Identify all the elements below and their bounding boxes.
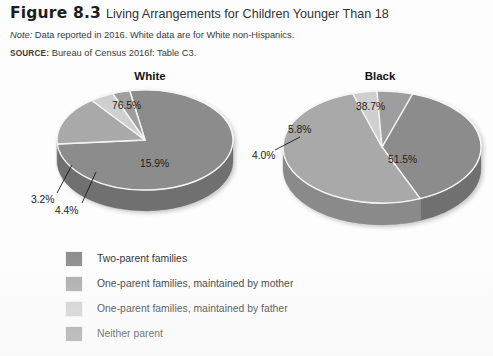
pie-chart-white xyxy=(57,90,233,211)
white-label-neither: 3.2% xyxy=(31,194,54,205)
legend: Two-parent families One-parent families,… xyxy=(65,246,293,346)
figure-page: Figure 8.3Living Arrangements for Childr… xyxy=(0,0,493,356)
legend-item-neither: Neither parent xyxy=(65,321,293,346)
legend-swatch-father xyxy=(65,301,83,317)
legend-label-mother: One-parent families, maintained by mothe… xyxy=(97,278,293,289)
legend-item-mother: One-parent families, maintained by mothe… xyxy=(65,271,293,296)
legend-label-two-parent: Two-parent families xyxy=(97,253,187,264)
legend-swatch-neither xyxy=(65,326,83,342)
legend-swatch-two-parent xyxy=(65,251,83,267)
legend-item-father: One-parent families, maintained by fathe… xyxy=(65,296,293,321)
black-label-father: 4.0% xyxy=(252,150,275,161)
legend-item-two-parent: Two-parent families xyxy=(65,246,293,271)
black-label-mother: 51.5% xyxy=(388,154,417,165)
legend-label-neither: Neither parent xyxy=(97,328,163,339)
black-label-neither: 5.8% xyxy=(288,124,311,135)
legend-label-father: One-parent families, maintained by fathe… xyxy=(97,303,288,314)
white-label-mother: 15.9% xyxy=(140,158,169,169)
white-label-father: 4.4% xyxy=(55,205,78,216)
black-label-two-parent: 38.7% xyxy=(356,101,385,112)
legend-swatch-mother xyxy=(65,276,83,292)
white-label-two-parent: 76.5% xyxy=(112,100,141,111)
